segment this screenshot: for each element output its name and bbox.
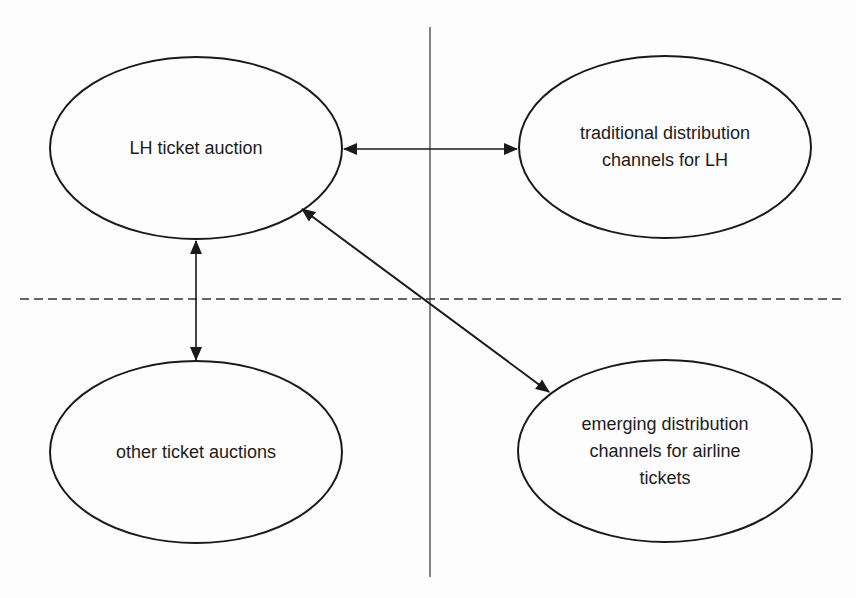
node-lh-auction-label: LH ticket auction: [129, 135, 262, 162]
node-emerging: emerging distribution channels for airli…: [518, 360, 812, 542]
node-traditional-line2: channels for LH: [602, 147, 728, 174]
node-emerging-line3: tickets: [639, 465, 690, 492]
node-emerging-line2: channels for airline: [589, 438, 740, 465]
node-other-auctions: other ticket auctions: [50, 361, 342, 543]
node-traditional-line1: traditional distribution: [580, 120, 750, 147]
node-emerging-line1: emerging distribution: [581, 411, 748, 438]
node-other-auctions-label: other ticket auctions: [116, 439, 276, 466]
node-lh-auction: LH ticket auction: [50, 57, 342, 239]
node-traditional: traditional distribution channels for LH: [519, 56, 811, 238]
quadrant-diagram: LH ticket auction traditional distributi…: [0, 0, 856, 598]
